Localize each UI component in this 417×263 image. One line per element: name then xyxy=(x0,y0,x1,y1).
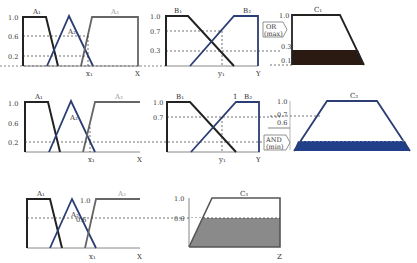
row2-b1-label: B₁ xyxy=(176,93,184,101)
row3-a1-membership xyxy=(27,199,62,248)
row2-c2-label: C₂ xyxy=(350,92,358,100)
row2-x1-label: x₁ xyxy=(88,156,95,164)
row1-b-tick-3: 0.3 xyxy=(150,47,160,55)
row2-c-tick-1: 1.0 xyxy=(277,98,287,106)
row1-b-panel: B₁ B₂ 1.0 0.7 0.3 y₁ Y xyxy=(150,7,280,78)
row1-y1-label: y₁ xyxy=(217,70,225,78)
row2-x-axis-label: X xyxy=(137,156,142,164)
row3-c-tick-1: 1.0 xyxy=(174,195,184,203)
row2-b2-peak-label: 1 xyxy=(233,93,237,101)
row1-a3-label: A₃ xyxy=(110,8,119,16)
row1-a-tick-3: 0.2 xyxy=(8,53,18,61)
row2-a-tick-2: 0.6 xyxy=(8,120,18,128)
row3-c3-label: C₃ xyxy=(240,190,248,198)
row2-a2-membership xyxy=(49,101,95,152)
row2-and-operator: AND (min) xyxy=(264,135,290,151)
row-3: A₁ A₂ A₃ 1.0 0.6 x₁ X C₃ 1.0 0.6 Z xyxy=(27,190,282,261)
row3-x-axis-label: X xyxy=(137,253,142,261)
row2-b2-membership xyxy=(191,102,259,152)
row1-c-tick-3: 0.1 xyxy=(281,57,291,65)
row2-y1-label: y₁ xyxy=(218,156,226,164)
row1-x-axis-label: X xyxy=(135,70,140,78)
row1-a2-label: A₂ xyxy=(67,28,76,36)
row2-c2-clipped-area xyxy=(294,141,410,151)
row2-b-tick-2: 0.7 xyxy=(153,114,163,122)
row2-a-tick-1: 1.0 xyxy=(8,100,18,108)
row2-c-tick-3: 0.6 xyxy=(277,119,287,127)
row1-a1-membership xyxy=(23,17,58,66)
row1-a1-label: A₁ xyxy=(32,8,41,16)
row3-a1-label: A₁ xyxy=(36,190,45,198)
row1-b-tick-2: 0.7 xyxy=(150,28,160,36)
row3-c-panel: C₃ 1.0 0.6 Z xyxy=(174,190,282,261)
row1-b1-label: B₁ xyxy=(174,7,182,15)
row2-b2-label: B₂ xyxy=(244,93,252,101)
row2-operator-line2: (min) xyxy=(266,143,284,151)
row2-a-panel: A₁ A₂ A₃ 1.0 0.6 0.2 x₁ X xyxy=(8,93,142,164)
row1-c-tick-2: 0.3 xyxy=(281,43,291,51)
row1-a-tick-2: 0.6 xyxy=(8,33,18,41)
row1-b1-membership xyxy=(166,16,234,66)
row3-x1-label: x₁ xyxy=(89,253,96,261)
row2-b1-membership xyxy=(167,102,236,152)
row3-c-tick-2: 0.6 xyxy=(174,215,184,223)
row2-b-panel: B₁ 1 B₂ 1.0 0.7 y₁ Y xyxy=(140,93,280,164)
row1-c-tick-1: 1.0 xyxy=(279,12,289,20)
row2-a2-label: A₂ xyxy=(69,114,78,122)
row3-a-tick-2: 0.6 xyxy=(76,216,86,224)
row3-a-tick-1: 1.0 xyxy=(80,197,90,205)
row2-b-tick-1: 1.0 xyxy=(153,99,163,107)
row-1: A₁ A₂ A₃ 1.0 0.6 0.2 x₁ X B₁ B₂ 1.0 0.7 … xyxy=(0,6,364,78)
row3-z-axis-label: Z xyxy=(277,253,282,261)
row1-x1-label: x₁ xyxy=(86,70,93,78)
row1-c1-clipped-area xyxy=(292,50,364,65)
row1-a-tick-1: 1.0 xyxy=(8,14,18,22)
row3-a3-label: A₃ xyxy=(117,190,126,198)
row1-a-panel: A₁ A₂ A₃ 1.0 0.6 0.2 x₁ X xyxy=(8,8,140,78)
row3-c3-aggregated-area xyxy=(189,218,280,247)
row2-a1-label: A₁ xyxy=(34,93,43,101)
fuzzy-inference-diagram: A₁ A₂ A₃ 1.0 0.6 0.2 x₁ X B₁ B₂ 1.0 0.7 … xyxy=(0,0,417,263)
row1-b-tick-1: 1.0 xyxy=(150,13,160,21)
row2-c-tick-2: 0.7 xyxy=(277,111,287,119)
row2-y-axis-label: Y xyxy=(255,156,261,164)
row2-a3-label: A₃ xyxy=(114,93,123,101)
row2-a1-membership xyxy=(25,102,60,152)
row1-c1-label: C₁ xyxy=(314,6,322,14)
row1-or-operator: OR (max) xyxy=(263,22,287,38)
row1-y-axis-label: Y xyxy=(255,70,261,78)
row1-b2-membership xyxy=(190,16,258,66)
row1-operator-line2: (max) xyxy=(264,30,283,38)
row1-b2-label: B₂ xyxy=(243,7,251,15)
row2-a-tick-3: 0.2 xyxy=(8,139,18,147)
row-2: A₁ A₂ A₃ 1.0 0.6 0.2 x₁ X B₁ 1 B₂ 1.0 0.… xyxy=(8,92,410,164)
